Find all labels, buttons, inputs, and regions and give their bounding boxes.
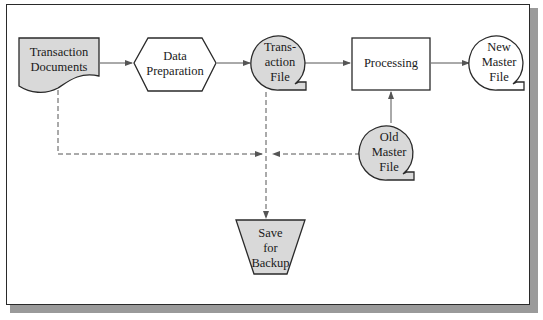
save-for-backup-label: Save for Backup	[236, 226, 305, 271]
transaction-file-label: Trans- action File	[253, 40, 307, 85]
transaction-file-line3: File	[253, 70, 307, 85]
new-master-file-line2: Master	[471, 55, 527, 70]
transaction-documents-line1: Transaction	[19, 45, 99, 60]
dashed-edges	[58, 90, 360, 218]
transaction-file-line1: Trans-	[253, 40, 307, 55]
new-master-file-line3: File	[471, 70, 527, 85]
processing-label: Processing	[352, 56, 430, 71]
old-master-file-line2: Master	[361, 145, 417, 160]
edge-documents-to-backup	[58, 90, 262, 154]
old-master-file-line3: File	[361, 160, 417, 175]
data-preparation-label: Data Preparation	[134, 49, 216, 79]
old-master-file-line1: Old	[361, 130, 417, 145]
save-for-backup-line1: Save	[236, 226, 305, 241]
new-master-file-label: New Master File	[471, 40, 527, 85]
transaction-file-line2: action	[253, 55, 307, 70]
transaction-documents-label: Transaction Documents	[19, 45, 99, 75]
data-preparation-line1: Data	[134, 49, 216, 64]
transaction-documents-line2: Documents	[19, 60, 99, 75]
save-for-backup-line3: Backup	[236, 256, 305, 271]
old-master-file-label: Old Master File	[361, 130, 417, 175]
save-for-backup-line2: for	[236, 241, 305, 256]
data-preparation-line2: Preparation	[134, 64, 216, 79]
new-master-file-line1: New	[471, 40, 527, 55]
